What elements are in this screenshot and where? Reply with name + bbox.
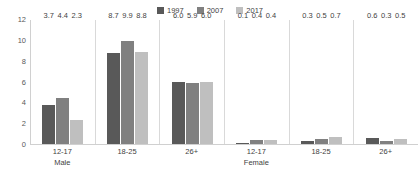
bar-slot: 4.4 xyxy=(56,20,69,144)
y-tick-label: 8 xyxy=(22,58,26,66)
x-category-label: 12-17Male xyxy=(30,147,95,169)
category-group: 0.60.30.5 xyxy=(354,20,418,144)
bar-value-label: 6.0 xyxy=(173,12,183,20)
bar-value-label: 0.1 xyxy=(238,12,248,20)
bar-slot: 0.5 xyxy=(315,20,328,144)
sex-group-label: Female xyxy=(224,158,289,169)
y-tick-label: 0 xyxy=(22,141,26,149)
x-category-label: 18-25 xyxy=(95,147,160,169)
bar-value-label: 9.9 xyxy=(122,12,132,20)
y-tick-label: 4 xyxy=(22,100,26,108)
bar-1997[interactable]: 0.1 xyxy=(236,143,249,144)
bar-slot: 0.1 xyxy=(236,20,249,144)
age-band-label: 26+ xyxy=(379,147,392,156)
bar-slot: 8.7 xyxy=(107,20,120,144)
y-tick-label: 12 xyxy=(18,16,26,24)
x-category-label: 12-17Female xyxy=(224,147,289,169)
bar-1997[interactable]: 0.3 xyxy=(301,141,314,144)
bar-slot: 0.4 xyxy=(264,20,277,144)
category-group: 8.79.98.8 xyxy=(96,20,161,144)
legend-swatch-1997 xyxy=(157,7,164,14)
bar-value-label: 3.7 xyxy=(44,12,54,20)
bar-1997[interactable]: 6.0 xyxy=(172,82,185,145)
bar-1997[interactable]: 3.7 xyxy=(42,105,55,144)
bar-2007[interactable]: 5.9 xyxy=(186,83,199,144)
bar-slot: 5.9 xyxy=(186,20,199,144)
sex-group-label: Male xyxy=(30,158,95,169)
age-band-label: 26+ xyxy=(185,147,198,156)
age-band-label: 12-17 xyxy=(53,147,72,156)
bar-2017[interactable]: 0.4 xyxy=(264,140,277,144)
y-tick-label: 10 xyxy=(18,37,26,45)
bar-value-label: 0.3 xyxy=(381,12,391,20)
category-group: 6.05.96.0 xyxy=(160,20,225,144)
bar-2007[interactable]: 0.3 xyxy=(380,141,393,144)
category-group: 0.30.50.7 xyxy=(290,20,355,144)
bar-value-label: 6.0 xyxy=(201,12,211,20)
x-category-label: 18-25 xyxy=(289,147,354,169)
bar-2007[interactable]: 0.4 xyxy=(250,140,263,144)
bar-value-label: 0.3 xyxy=(302,12,312,20)
plot-wrapper: 024681012 3.74.42.38.79.98.86.05.96.00.1… xyxy=(0,20,420,145)
bar-slot: 6.0 xyxy=(172,20,185,144)
bar-value-label: 0.7 xyxy=(330,12,340,20)
category-group: 3.74.42.3 xyxy=(31,20,96,144)
bar-1997[interactable]: 8.7 xyxy=(107,53,120,144)
bar-2007[interactable]: 9.9 xyxy=(121,41,134,144)
bar-chart: 1997 2007 2017 024681012 3.74.42.38.79.9… xyxy=(0,0,420,180)
age-band-label: 18-25 xyxy=(117,147,136,156)
bar-slot: 0.3 xyxy=(301,20,314,144)
bar-2017[interactable]: 0.5 xyxy=(394,139,407,144)
bar-value-label: 8.8 xyxy=(136,12,146,20)
x-axis-labels: 12-17Male18-2526+12-17Female18-2526+ xyxy=(30,147,418,169)
bar-slot: 0.5 xyxy=(394,20,407,144)
bar-value-label: 2.3 xyxy=(72,12,82,20)
bar-slot: 2.3 xyxy=(70,20,83,144)
bar-2017[interactable]: 8.8 xyxy=(135,52,148,144)
y-tick-label: 2 xyxy=(22,120,26,128)
bar-value-label: 0.6 xyxy=(367,12,377,20)
bar-2017[interactable]: 0.7 xyxy=(329,137,342,144)
age-band-label: 18-25 xyxy=(311,147,330,156)
plot-area: 3.74.42.38.79.98.86.05.96.00.10.40.40.30… xyxy=(30,20,418,145)
bar-slot: 0.4 xyxy=(250,20,263,144)
bar-2017[interactable]: 2.3 xyxy=(70,120,83,144)
x-category-label: 26+ xyxy=(353,147,418,169)
bar-slot: 6.0 xyxy=(200,20,213,144)
bar-value-label: 0.5 xyxy=(395,12,405,20)
bar-slot: 3.7 xyxy=(42,20,55,144)
bar-slot: 8.8 xyxy=(135,20,148,144)
bar-2007[interactable]: 0.5 xyxy=(315,139,328,144)
bar-value-label: 5.9 xyxy=(187,12,197,20)
bar-value-label: 0.4 xyxy=(266,12,276,20)
bar-1997[interactable]: 0.6 xyxy=(366,138,379,144)
bar-value-label: 0.5 xyxy=(316,12,326,20)
bar-2017[interactable]: 6.0 xyxy=(200,82,213,145)
bar-slot: 0.3 xyxy=(380,20,393,144)
bar-slot: 0.6 xyxy=(366,20,379,144)
y-axis: 024681012 xyxy=(0,20,30,145)
age-band-label: 12-17 xyxy=(247,147,266,156)
x-category-label: 26+ xyxy=(159,147,224,169)
bar-value-label: 8.7 xyxy=(108,12,118,20)
bar-value-label: 0.4 xyxy=(252,12,262,20)
bar-value-label: 4.4 xyxy=(58,12,68,20)
bar-2007[interactable]: 4.4 xyxy=(56,98,69,144)
bar-slot: 9.9 xyxy=(121,20,134,144)
bar-slot: 0.7 xyxy=(329,20,342,144)
category-group: 0.10.40.4 xyxy=(225,20,290,144)
y-tick-label: 6 xyxy=(22,79,26,87)
